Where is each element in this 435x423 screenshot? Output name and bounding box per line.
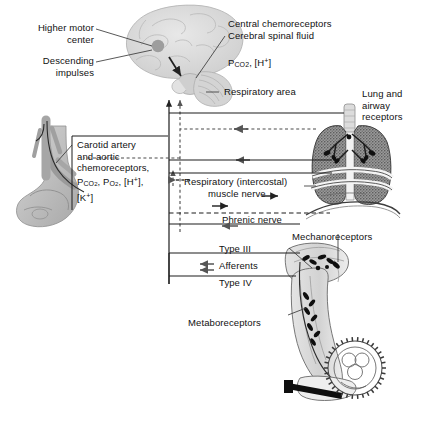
carotid-line-1: Carotid artery: [77, 139, 169, 151]
carotid-h-text: [H: [124, 175, 134, 186]
pedal-block: [284, 380, 293, 393]
descending-impulses-label: Descending impulses: [8, 55, 94, 78]
carotid-po2-sep: ,: [119, 175, 122, 186]
type-iii-label: Type III: [219, 243, 251, 255]
respiratory-control-diagram: Higher motor center Descending impulses …: [0, 0, 435, 423]
csf-bracket-close: ]: [269, 56, 272, 67]
carotid-chemistry-line-2: [K+]: [77, 190, 169, 203]
carotid-po2-symbol: P: [103, 175, 109, 186]
lung-left: [312, 126, 346, 205]
carotid-line-2: and aortic: [77, 151, 169, 163]
lung-airway-receptors-label: Lung and airway receptors: [362, 88, 432, 123]
lung-right: [354, 126, 391, 205]
respiratory-area-label: Respiratory area: [224, 86, 296, 98]
metaboreceptors-label: Metaboreceptors: [188, 317, 261, 329]
central-chemoreceptors-label: Central chemoreceptors: [228, 18, 332, 30]
carotid-h-end: ],: [138, 175, 143, 186]
respiratory-muscle-nerve-line-2: muscle nerve: [208, 188, 266, 200]
carotid-chemistry-line-1: PCO2, PO2, [H+],: [77, 174, 169, 191]
carotid-k-end: ]: [90, 192, 93, 203]
phrenic-nerve-label: Phrenic nerve: [222, 214, 282, 226]
higher-motor-center-label: Higher motor center: [8, 22, 94, 45]
higher-motor-center-marker: [152, 40, 164, 52]
csf-chemistry-label: PCO2, [H+]: [228, 43, 271, 70]
mechanoreceptors-label: Mechanoreceptors: [292, 231, 372, 243]
csf-co2-sub: CO: [234, 61, 245, 68]
type-iv-label: Type IV: [219, 277, 252, 289]
carotid-label-group: Carotid artery and aortic chemoreceptors…: [77, 139, 169, 203]
carotid-line-3: chemoreceptors,: [77, 162, 169, 174]
afferents-label: Afferents: [219, 260, 258, 272]
csf-bracket-open: , [H: [249, 56, 264, 67]
carotid-k-text: [K: [77, 192, 86, 203]
leg-illustration: [284, 243, 386, 400]
respiratory-muscle-nerve-line-1: Respiratory (intercostal): [184, 176, 287, 188]
carotid-pco2-sep: ,: [98, 175, 101, 186]
cerebral-spinal-fluid-label: Cerebral spinal fluid: [228, 30, 314, 42]
